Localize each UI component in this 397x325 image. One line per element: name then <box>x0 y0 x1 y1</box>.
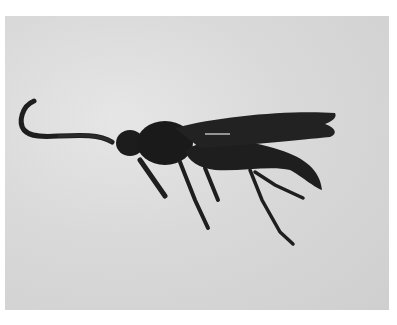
wasp-silhouette <box>0 0 397 325</box>
wasp-photo <box>5 16 389 310</box>
